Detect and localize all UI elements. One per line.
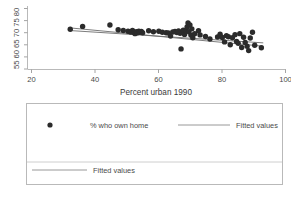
chart-canvas: 55 60 65 70 75 80 20 40 60 80 100 Percen…	[0, 0, 291, 197]
x-tick-label-80: 80	[218, 75, 226, 84]
scatter-point	[197, 32, 202, 37]
scatter-point	[235, 41, 240, 46]
x-axis-tick-labels: 20 40 60 80 100	[27, 75, 291, 84]
legend-label-fitted-values-1: Fitted values	[236, 121, 278, 130]
scatter-point	[246, 48, 251, 53]
x-tick-label-60: 60	[154, 75, 162, 84]
scatter-point	[121, 28, 126, 33]
scatter-point	[68, 27, 73, 32]
scatter-point	[250, 30, 255, 35]
y-axis-tick-label-block: 55 60 65 70 75 80	[12, 8, 21, 69]
y-axis-tick-labels: 55 60 65 70 75 80	[12, 8, 21, 69]
scatter-point	[207, 36, 212, 41]
scatter-point	[107, 22, 112, 27]
plot-frame	[28, 6, 287, 70]
scatter-point	[252, 43, 257, 48]
x-tick-label-40: 40	[91, 75, 99, 84]
scatter-point	[178, 46, 183, 51]
scatter-point	[248, 35, 253, 40]
scatter-point	[115, 27, 120, 32]
x-tick-label-20: 20	[27, 75, 35, 84]
legend-marker-filled-circle	[47, 122, 52, 127]
scatter-point	[222, 39, 227, 44]
x-axis-title: Percent urban 1990	[120, 88, 192, 97]
scatter-point	[241, 35, 246, 40]
scatter-point	[146, 28, 151, 33]
x-tick-label-100: 100	[279, 75, 291, 84]
legend-label-fitted-values-2: Fitted values	[93, 166, 135, 175]
legend-box	[27, 104, 283, 185]
scatter-point	[259, 45, 264, 50]
scatter-plot-figure: 55 60 65 70 75 80 20 40 60 80 100 Percen…	[0, 0, 291, 197]
scatter-point	[232, 32, 237, 37]
scatter-point	[151, 29, 156, 34]
scatter-point	[80, 24, 85, 29]
scatter-point	[228, 42, 233, 47]
x-axis-ticks	[32, 70, 286, 74]
scatter-point	[189, 26, 194, 31]
legend-label-own-home: % who own home	[90, 121, 148, 130]
y-axis-ticks	[24, 9, 28, 70]
scatter-point	[239, 45, 244, 50]
scatter-point	[140, 30, 145, 35]
